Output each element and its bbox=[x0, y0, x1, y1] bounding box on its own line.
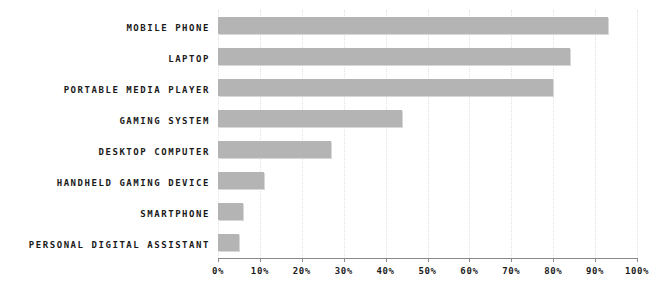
bar[interactable] bbox=[218, 17, 608, 34]
bar-row[interactable]: GAMING SYSTEM bbox=[0, 110, 666, 141]
bar[interactable] bbox=[218, 203, 243, 220]
bar[interactable] bbox=[218, 234, 239, 251]
axis-tick bbox=[469, 258, 470, 262]
bar-row[interactable]: SMARTPHONE bbox=[0, 203, 666, 234]
bar-row[interactable]: PORTABLE MEDIA PLAYER bbox=[0, 79, 666, 110]
axis-tick bbox=[511, 258, 512, 262]
bar-track bbox=[218, 110, 402, 127]
bar[interactable] bbox=[218, 48, 570, 65]
axis-tick-label: 100% bbox=[607, 266, 666, 276]
bar[interactable] bbox=[218, 110, 402, 127]
bar-track bbox=[218, 141, 331, 158]
bar-category-label: DESKTOP COMPUTER bbox=[0, 144, 210, 161]
bar-category-label: PORTABLE MEDIA PLAYER bbox=[0, 82, 210, 99]
axis-tick bbox=[302, 258, 303, 262]
axis-tick bbox=[428, 258, 429, 262]
bar-category-label: MOBILE PHONE bbox=[0, 20, 210, 37]
bar-category-label: HANDHELD GAMING DEVICE bbox=[0, 175, 210, 192]
bar-row[interactable]: LAPTOP bbox=[0, 48, 666, 79]
axis-tick bbox=[595, 258, 596, 262]
axis-tick bbox=[386, 258, 387, 262]
bar-category-label: LAPTOP bbox=[0, 51, 210, 68]
bar-track bbox=[218, 234, 239, 251]
axis-tick bbox=[637, 258, 638, 262]
bar-row[interactable]: HANDHELD GAMING DEVICE bbox=[0, 172, 666, 203]
bar-category-label: GAMING SYSTEM bbox=[0, 113, 210, 130]
bar-track bbox=[218, 172, 264, 189]
axis-tick bbox=[344, 258, 345, 262]
bar-category-label: PERSONAL DIGITAL ASSISTANT bbox=[0, 237, 210, 254]
bar-track bbox=[218, 79, 553, 96]
bar-chart: MOBILE PHONELAPTOPPORTABLE MEDIA PLAYERG… bbox=[0, 0, 666, 293]
bar-track bbox=[218, 48, 570, 65]
bar[interactable] bbox=[218, 172, 264, 189]
bar-row[interactable]: PERSONAL DIGITAL ASSISTANT bbox=[0, 234, 666, 265]
axis-tick bbox=[260, 258, 261, 262]
bar[interactable] bbox=[218, 141, 331, 158]
bar-row[interactable]: MOBILE PHONE bbox=[0, 17, 666, 48]
axis-tick bbox=[553, 258, 554, 262]
plot-area: MOBILE PHONELAPTOPPORTABLE MEDIA PLAYERG… bbox=[0, 0, 666, 258]
bar-category-label: SMARTPHONE bbox=[0, 206, 210, 223]
bar-track bbox=[218, 17, 608, 34]
bar[interactable] bbox=[218, 79, 553, 96]
bar-track bbox=[218, 203, 243, 220]
bar-row[interactable]: DESKTOP COMPUTER bbox=[0, 141, 666, 172]
axis-tick bbox=[218, 258, 219, 262]
